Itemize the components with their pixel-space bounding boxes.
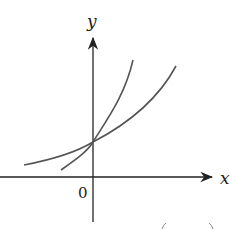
cropped-paren-fragment-right: [209, 223, 213, 229]
shallow-exponential-curve: [24, 66, 176, 165]
y-axis-label: y: [86, 11, 97, 31]
cropped-paren-fragment-left: [162, 223, 166, 229]
x-axis-label: x: [220, 168, 230, 188]
origin-label: 0: [78, 184, 88, 202]
graph-figure: y x 0: [0, 0, 233, 229]
steep-exponential-curve: [61, 60, 133, 170]
